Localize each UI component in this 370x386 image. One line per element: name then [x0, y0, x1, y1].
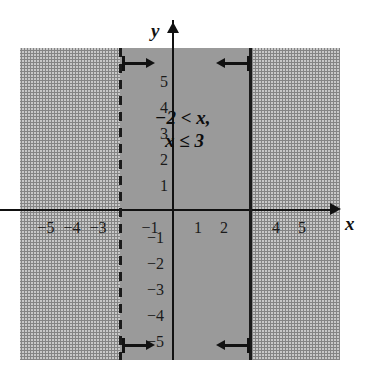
direction-arrow-top-right: [225, 62, 250, 65]
y-tick-2: 2: [144, 151, 168, 169]
y-axis-arrowhead: [167, 22, 179, 33]
arrow-stub: [247, 338, 250, 353]
arrow-stub: [247, 56, 250, 71]
x-tick-4: 4: [263, 219, 289, 237]
x-tick-minus-4: −4: [59, 219, 85, 237]
y-axis-label: y: [151, 20, 159, 42]
y-tick-5: 5: [144, 73, 168, 91]
y-tick-1: 1: [144, 177, 168, 195]
arrow-stub: [122, 338, 125, 353]
direction-arrow-top-left: [122, 62, 146, 65]
boundary-line-dashed-x-minus-2: [119, 48, 122, 360]
x-tick-minus-3: −3: [85, 219, 111, 237]
x-axis-arrowhead: [330, 203, 341, 215]
x-axis-label: x: [345, 213, 355, 235]
arrow-head: [216, 340, 225, 350]
x-tick-2: 2: [211, 219, 237, 237]
y-tick-minus-2: −2: [140, 255, 164, 273]
arrow-head: [216, 58, 225, 68]
x-axis: [0, 209, 330, 211]
y-tick-3: 3: [144, 125, 168, 143]
x-tick-5: 5: [289, 219, 315, 237]
y-tick-minus-1: −1: [140, 229, 164, 247]
direction-arrow-bottom-right: [225, 344, 250, 347]
y-axis: [172, 20, 174, 360]
boundary-line-solid-x-3: [249, 48, 252, 360]
x-tick-minus-5: −5: [33, 219, 59, 237]
arrow-stub: [122, 56, 125, 71]
y-tick-4: 4: [144, 99, 168, 117]
arrow-head: [146, 58, 155, 68]
x-tick-1: 1: [185, 219, 211, 237]
inequality-graph-figure: −2 < x, x ≤ 3 y x −5 −4 −3 −1 1 2 4 5 5 …: [0, 0, 370, 386]
plot-area: −2 < x, x ≤ 3: [20, 48, 340, 360]
y-tick-minus-4: −4: [140, 307, 164, 325]
y-tick-minus-5: −5: [140, 333, 164, 351]
y-tick-minus-3: −3: [140, 281, 164, 299]
